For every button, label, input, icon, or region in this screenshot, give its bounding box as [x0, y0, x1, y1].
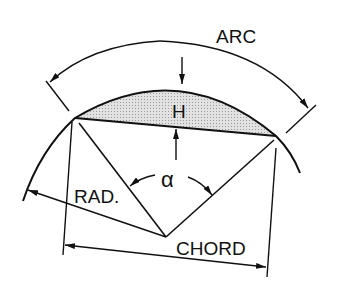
chord-dimension-line: [65, 245, 165, 256]
radius-right: [166, 140, 274, 237]
circular-segment-diagram: ARC H RAD. α CHORD: [0, 0, 342, 295]
angle-label: α: [161, 167, 174, 192]
arc-label: ARC: [216, 26, 256, 47]
arc-extension-right: [286, 105, 316, 133]
angle-arrow-right: [188, 177, 212, 195]
radius-label: RAD.: [74, 186, 119, 207]
angle-arrow-left: [130, 175, 155, 186]
arc-dimension-line: [50, 41, 160, 82]
radius-left: [79, 123, 166, 237]
height-label: H: [172, 101, 186, 122]
arc-extension-left: [46, 81, 69, 111]
chord-label: CHORD: [176, 238, 246, 259]
chord-extension-left: [63, 122, 72, 255]
chord-extension-right: [267, 148, 276, 277]
